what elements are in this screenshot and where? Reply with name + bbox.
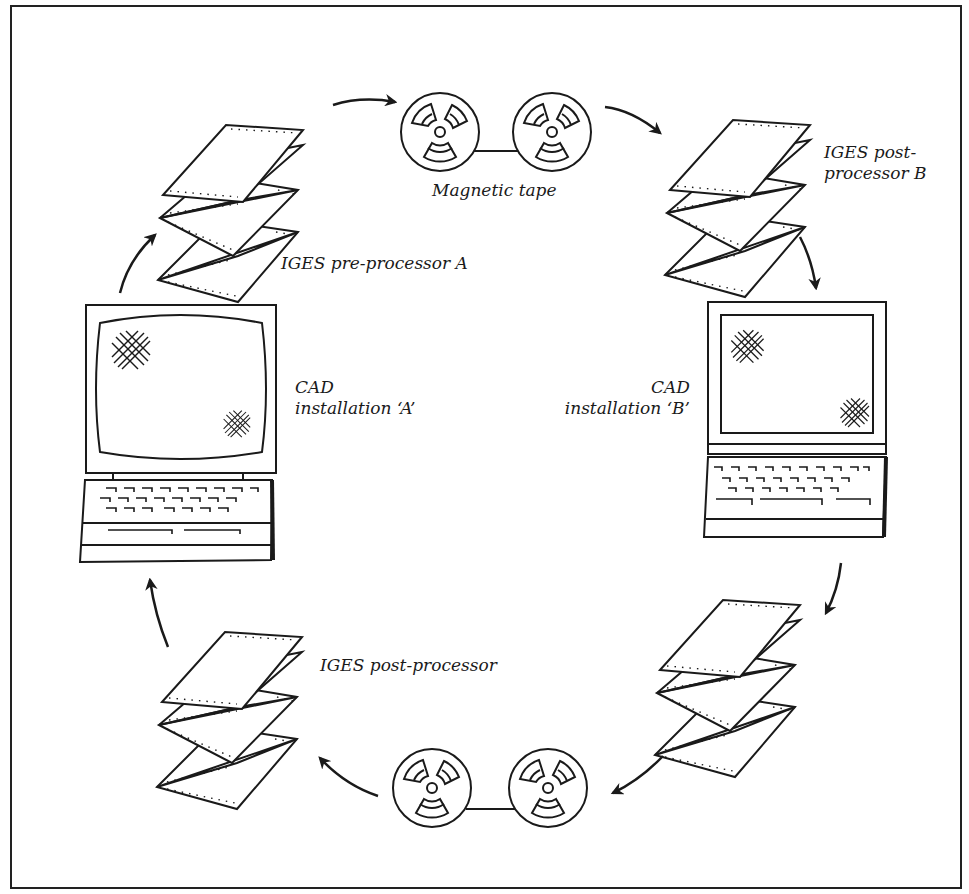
label-cad-b-line2: installation ‘B’ (540, 398, 690, 419)
fanfold-paper-pre-processor-b (655, 600, 800, 777)
arrow-pre-a-to-tape (333, 100, 395, 105)
magnetic-tape-top (401, 93, 591, 171)
arrow-cad-a-to-pre-a (120, 235, 155, 293)
label-cad-a-line1: CAD (295, 377, 334, 398)
arrow-pre-b-to-tape (613, 756, 663, 793)
arrow-tape-to-post-a (320, 758, 378, 796)
fanfold-paper-post-processor-a (157, 632, 302, 809)
label-cad-a-line2: installation ‘A’ (295, 398, 415, 419)
label-iges-pre-processor-a: IGES pre-processor A (281, 253, 468, 274)
label-iges-post-processor-b-line2: processor B (824, 163, 927, 184)
computer-cad-a-icon (80, 305, 276, 562)
label-iges-post-processor: IGES post-processor (320, 655, 497, 676)
label-cad-b-line1: CAD (540, 377, 690, 398)
arrow-post-a-to-cad-a (150, 580, 168, 647)
fanfold-paper-pre-processor-a (158, 125, 303, 302)
label-magnetic-tape-top: Magnetic tape (432, 180, 557, 201)
diagram-canvas (0, 0, 969, 894)
arrow-tape-to-post-b (605, 107, 660, 133)
arrow-post-b-to-cad-b (800, 237, 816, 288)
computer-cad-b-icon (704, 302, 886, 537)
arrow-cad-b-to-pre-b (826, 563, 841, 613)
magnetic-tape-bottom (393, 749, 587, 827)
fanfold-paper-post-processor-b (665, 120, 810, 297)
label-iges-post-processor-b-line1: IGES post- (824, 142, 916, 163)
